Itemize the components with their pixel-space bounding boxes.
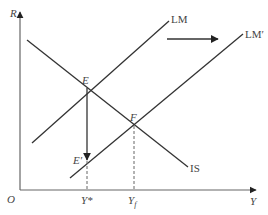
lm-curve [32, 21, 169, 143]
x-axis-label: Y [250, 195, 258, 207]
y-f-label: Yf [128, 194, 138, 209]
y-axis-label: R [9, 7, 17, 19]
point-e-label: E [81, 74, 89, 86]
y-star-label: Y* [81, 194, 93, 206]
lm-label: LM [171, 13, 188, 25]
lm-shifted-label: LM′ [245, 28, 264, 40]
lm-shifted-curve [70, 34, 243, 178]
point-e-prime-label: E′ [72, 154, 83, 166]
is-label: IS [190, 162, 200, 174]
point-f-label: F [129, 111, 137, 123]
origin-label: O [7, 193, 15, 205]
is-lm-diagram: R Y O LM LM′ IS E F E′ Y* Yf [0, 0, 268, 215]
is-curve [27, 40, 188, 167]
